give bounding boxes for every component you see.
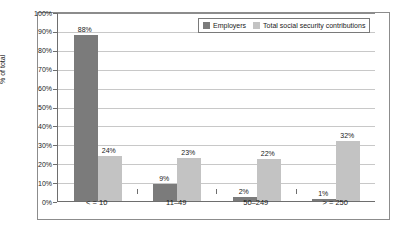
x-tick-mark: [216, 189, 217, 194]
y-tick-label: 20%: [8, 161, 52, 168]
y-tick-label: 30%: [8, 142, 52, 149]
legend-label: Total social security contributions: [263, 22, 365, 29]
bar-value-label: 2%: [226, 188, 262, 195]
bar-value-label: 1%: [305, 190, 341, 197]
y-tick-label: 50%: [8, 104, 52, 111]
y-tick-mark: [53, 51, 57, 52]
bar-value-label: 32%: [329, 132, 365, 139]
y-tick-mark: [53, 70, 57, 71]
y-tick-label: 0%: [8, 199, 52, 206]
plot-area: [57, 13, 375, 202]
y-axis-title: % of total: [0, 55, 6, 84]
y-tick-label: 80%: [8, 47, 52, 54]
y-tick-label: 100%: [8, 10, 52, 17]
x-category-label: 50–249: [216, 199, 296, 207]
x-category-label: > = 250: [296, 199, 376, 207]
bar-value-label: 9%: [146, 175, 182, 182]
legend-label: Employers: [213, 22, 246, 29]
y-tick-mark: [53, 126, 57, 127]
y-tick-mark: [53, 32, 57, 33]
y-tick-label: 90%: [8, 28, 52, 35]
chart-legend: EmployersTotal social security contribut…: [198, 18, 370, 33]
y-tick-label: 10%: [8, 180, 52, 187]
y-tick-label: 70%: [8, 66, 52, 73]
x-tick-mark: [137, 189, 138, 194]
y-tick-mark: [53, 145, 57, 146]
x-tick-mark: [296, 189, 297, 194]
x-category-label: 11–49: [137, 199, 217, 207]
chart-figure: % of total EmployersTotal social securit…: [0, 0, 409, 229]
legend-entry: Total social security contributions: [253, 22, 365, 29]
gridline-60: [58, 89, 375, 90]
bar: [98, 156, 122, 201]
y-tick-mark: [53, 89, 57, 90]
y-tick-label: 40%: [8, 123, 52, 130]
x-category-label: < = 10: [57, 199, 137, 207]
gridline-70: [58, 70, 375, 71]
gridline-40: [58, 126, 375, 127]
bar-value-label: 24%: [91, 147, 127, 154]
legend-swatch-icon: [203, 22, 210, 29]
legend-swatch-icon: [253, 22, 260, 29]
bar-value-label: 88%: [67, 26, 103, 33]
bar: [74, 35, 98, 201]
bar-value-label: 23%: [170, 149, 206, 156]
gridline-100: [58, 13, 375, 14]
y-tick-mark: [53, 183, 57, 184]
bar-value-label: 22%: [250, 150, 286, 157]
gridline-80: [58, 51, 375, 52]
y-tick-label: 60%: [8, 85, 52, 92]
gridline-50: [58, 108, 375, 109]
y-tick-mark: [53, 13, 57, 14]
legend-entry: Employers: [203, 22, 246, 29]
y-tick-mark: [53, 108, 57, 109]
y-tick-mark: [53, 164, 57, 165]
